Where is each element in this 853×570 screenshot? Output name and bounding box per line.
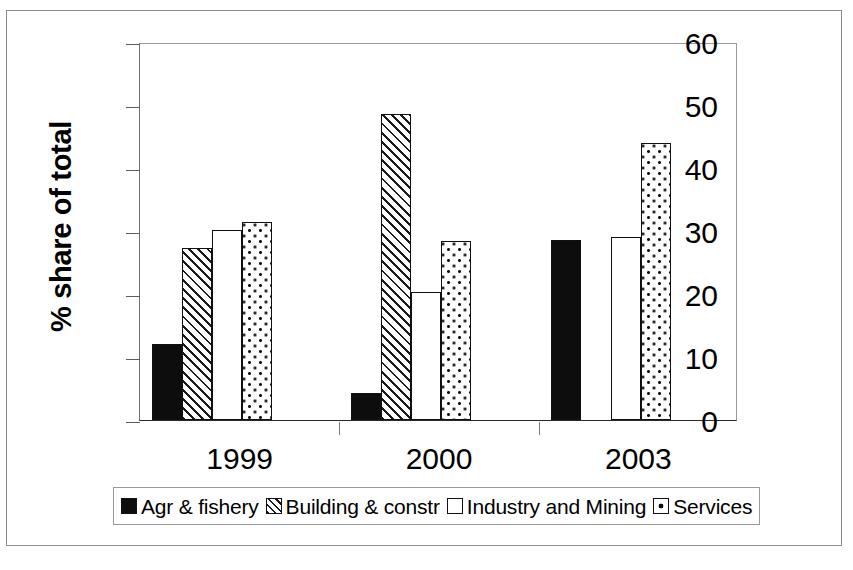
legend-item: Industry and Mining (447, 488, 646, 524)
bar (381, 114, 411, 420)
y-axis-tick (126, 422, 140, 423)
y-axis-tick (126, 296, 140, 297)
bar (611, 237, 641, 420)
plot-area: 0102030405060199920002003 (139, 43, 737, 421)
legend-swatch-icon (266, 498, 282, 514)
y-axis-tick (126, 170, 140, 171)
y-axis-tick (126, 233, 140, 234)
legend-item-label: Agr & fishery (141, 496, 259, 517)
bar (152, 344, 182, 420)
legend-item-label: Building & constr (286, 496, 440, 517)
bar (212, 230, 242, 420)
legend-item: Services (653, 488, 752, 524)
y-axis-tick (126, 44, 140, 45)
x-axis-category-label: 2003 (538, 444, 738, 474)
y-axis-tick-label: 60 (598, 29, 718, 59)
x-axis-category-label: 2000 (339, 444, 539, 474)
bar (242, 222, 272, 420)
legend-item-label: Industry and Mining (467, 496, 646, 517)
figure: % share of total 01020304050601999200020… (0, 0, 853, 570)
bar (182, 248, 212, 420)
y-axis-tick (126, 359, 140, 360)
x-axis-category-label: 1999 (140, 444, 340, 474)
legend-item-label: Services (673, 496, 752, 517)
bar (351, 393, 381, 420)
legend-swatch-icon (653, 498, 669, 514)
chart-legend: Agr & fisheryBuilding & constrIndustry a… (113, 487, 760, 525)
legend-item: Building & constr (266, 488, 440, 524)
y-axis-tick-label: 50 (598, 92, 718, 122)
x-axis-tick (339, 422, 340, 435)
bar (441, 241, 471, 420)
bar (411, 292, 441, 420)
legend-swatch-icon (447, 498, 463, 514)
y-axis-title: % share of total (45, 62, 78, 392)
legend-swatch-icon (121, 498, 137, 514)
bar (551, 240, 581, 420)
y-axis-tick (126, 107, 140, 108)
legend-item: Agr & fishery (121, 488, 259, 524)
x-axis-tick (539, 422, 540, 435)
bar (641, 143, 671, 420)
